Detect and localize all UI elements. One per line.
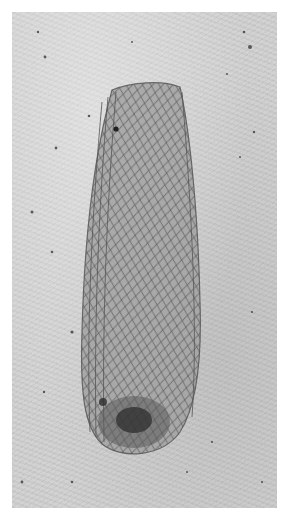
fossil-photo	[12, 12, 277, 508]
fossil-wing-illustration	[12, 12, 277, 508]
fossil-wing	[72, 72, 212, 472]
